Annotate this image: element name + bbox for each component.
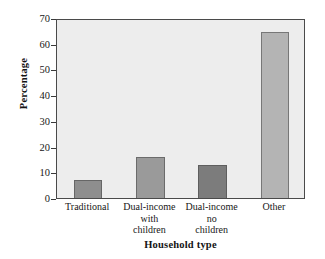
y-tick-label: 60: [22, 40, 50, 50]
y-tick-mark: [51, 122, 56, 123]
y-tick-label: 0: [22, 194, 50, 204]
y-tick-label: 70: [22, 14, 50, 24]
x-tick-label-line: children: [118, 224, 180, 236]
bar: [136, 157, 165, 198]
bar: [261, 32, 290, 198]
y-tick-mark: [51, 96, 56, 97]
y-tick-label: 50: [22, 65, 50, 75]
plot-area: [56, 19, 305, 199]
x-tick-label: Dual-incomenochildren: [181, 201, 243, 236]
x-axis-tick-labels: TraditionalDual-incomewithchildrenDual-i…: [56, 201, 305, 243]
x-axis-title: Household type: [56, 239, 305, 250]
y-tick-mark: [51, 173, 56, 174]
x-tick-label-line: Dual-income: [181, 201, 243, 213]
x-tick-label-line: with: [118, 213, 180, 225]
y-tick-label: 20: [22, 143, 50, 153]
x-tick-label: Dual-incomewithchildren: [118, 201, 180, 236]
x-tick-label-line: Other: [243, 201, 305, 213]
y-tick-mark: [51, 199, 56, 200]
bars-layer: [57, 20, 304, 198]
bar: [198, 165, 227, 198]
x-tick-label-line: Dual-income: [118, 201, 180, 213]
y-tick-label: 40: [22, 91, 50, 101]
y-tick-mark: [51, 45, 56, 46]
x-tick-label-line: Traditional: [56, 201, 118, 213]
x-tick-label-line: no: [181, 213, 243, 225]
x-tick-label: Traditional: [56, 201, 118, 213]
y-tick-mark: [51, 70, 56, 71]
bar: [74, 180, 103, 198]
x-tick-label-line: children: [181, 224, 243, 236]
y-tick-mark: [51, 19, 56, 20]
y-tick-label: 30: [22, 117, 50, 127]
x-tick-label: Other: [243, 201, 305, 213]
y-tick-mark: [51, 148, 56, 149]
y-tick-label: 10: [22, 168, 50, 178]
bar-chart-figure: Percentage 010203040506070 TraditionalDu…: [0, 0, 325, 259]
y-axis-tick-labels: 010203040506070: [22, 19, 50, 199]
